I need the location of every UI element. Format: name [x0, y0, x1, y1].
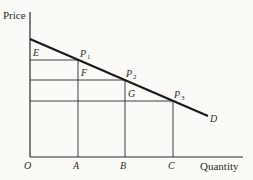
tick-label-c: C — [168, 160, 175, 171]
region-label-f: F — [80, 67, 88, 78]
point-label-p1: P 1 — [79, 48, 91, 61]
svg-text:2: 2 — [133, 73, 137, 81]
svg-text:P: P — [79, 48, 86, 59]
region-label-e: E — [32, 47, 39, 58]
demand-diagram: Price Quantity O A B C E F G P 1 P 2 P 3… — [0, 0, 253, 180]
y-axis-label: Price — [3, 9, 26, 21]
demand-curve-label: D — [209, 113, 218, 124]
tick-label-a: A — [72, 160, 80, 171]
x-axis-label: Quantity — [200, 160, 239, 172]
svg-text:P: P — [125, 68, 132, 79]
point-label-p2: P 2 — [125, 68, 137, 81]
origin-label: O — [24, 160, 31, 171]
point-label-p3: P 3 — [173, 89, 185, 102]
svg-text:3: 3 — [181, 94, 185, 102]
region-label-g: G — [128, 88, 135, 99]
svg-text:1: 1 — [87, 53, 91, 61]
demand-curve — [30, 39, 208, 116]
svg-text:P: P — [173, 89, 180, 100]
tick-label-b: B — [120, 160, 126, 171]
